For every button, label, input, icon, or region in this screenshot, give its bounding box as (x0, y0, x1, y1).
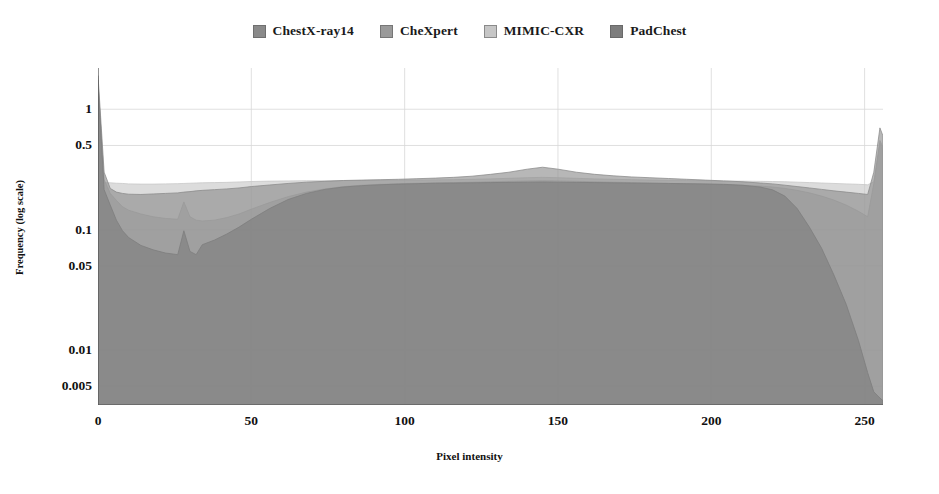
legend-swatch-icon (484, 25, 497, 38)
x-tick-label: 100 (395, 414, 415, 428)
x-axis-ticks: 050100150200250 (0, 414, 939, 434)
y-tick-label: 1 (85, 102, 92, 116)
legend-item-chestx-ray14[interactable]: ChestX-ray14 (253, 24, 354, 38)
x-axis-label: Pixel intensity (0, 450, 939, 462)
legend-swatch-icon (380, 25, 393, 38)
x-tick-label: 200 (701, 414, 721, 428)
legend-item-label: PadChest (630, 24, 686, 38)
x-tick-label: 50 (245, 414, 259, 428)
x-tick-label: 0 (95, 414, 102, 428)
x-tick-label: 150 (548, 414, 568, 428)
area-chart-svg (98, 68, 883, 405)
y-tick-label: 0.05 (68, 259, 92, 273)
legend-item-label: MIMIC-CXR (504, 24, 584, 38)
legend-item-mimic-cxr[interactable]: MIMIC-CXR (484, 24, 584, 38)
plot-area (98, 68, 883, 405)
chart-legend: ChestX-ray14CheXpertMIMIC-CXRPadChest (0, 20, 939, 42)
y-tick-label: 0.5 (75, 139, 92, 153)
legend-item-chexpert[interactable]: CheXpert (380, 24, 458, 38)
x-tick-label: 250 (854, 414, 874, 428)
legend-item-label: ChestX-ray14 (273, 24, 354, 38)
y-axis-label: Frequency (log scale) (14, 180, 32, 275)
chart-figure: ChestX-ray14CheXpertMIMIC-CXRPadChest 10… (0, 0, 939, 494)
legend-item-padchest[interactable]: PadChest (610, 24, 686, 38)
legend-swatch-icon (610, 25, 623, 38)
legend-item-label: CheXpert (400, 24, 458, 38)
y-tick-label: 0.1 (75, 223, 92, 237)
y-tick-label: 0.01 (68, 343, 92, 357)
legend-swatch-icon (253, 25, 266, 38)
area-series-padchest (98, 80, 883, 405)
y-tick-label: 0.005 (62, 380, 92, 394)
